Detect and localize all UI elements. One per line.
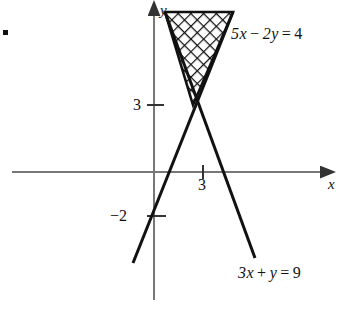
- eq1-lhs2: 2y: [263, 25, 279, 42]
- eq2-equals: =: [277, 264, 293, 281]
- axes-group: [12, 14, 322, 300]
- y-tick-label-3: 3: [133, 96, 141, 114]
- eq2-operator: +: [254, 264, 270, 281]
- eq1-rhs: 4: [294, 25, 303, 42]
- eq1-operator: −: [247, 25, 263, 42]
- solution-region: [165, 12, 233, 105]
- equation-label-5x-2y-4: 5x−2y=4: [231, 25, 303, 43]
- eq2-rhs: 9: [293, 264, 302, 281]
- x-tick-label-3: 3: [198, 176, 206, 194]
- equation-label-3x-y-9: 3x+y=9: [238, 264, 301, 282]
- eq2-lhs1: 3x: [238, 264, 254, 281]
- y-tick-label-neg2: −2: [110, 207, 127, 225]
- math-graph-figure: 5x−2y=4 3x+y=9 y x 3 −2 3: [0, 0, 348, 313]
- eq1-lhs1: 5x: [231, 25, 247, 42]
- x-axis-label: x: [328, 176, 335, 193]
- eq1-equals: =: [279, 25, 295, 42]
- y-axis-label: y: [160, 2, 167, 19]
